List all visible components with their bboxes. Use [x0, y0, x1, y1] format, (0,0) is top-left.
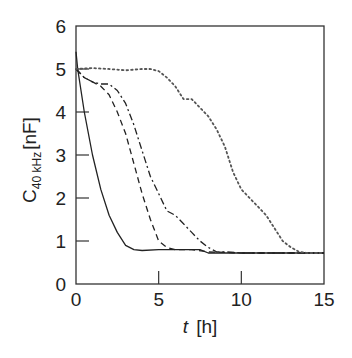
plot-border — [76, 26, 324, 284]
x-axis-var: t — [183, 316, 189, 337]
y-tick-label: 4 — [55, 102, 66, 123]
x-axis-unit: [h] — [196, 316, 217, 337]
y-axis-sub: 40 kHz — [30, 152, 44, 189]
y-tick-label: 5 — [55, 59, 66, 80]
tick-labels: 0123456051015 — [55, 16, 334, 310]
y-tick-label: 6 — [55, 16, 66, 37]
series-dash-dot — [76, 69, 324, 253]
chart: 0123456051015 t [h] C40 kHz[nF] — [0, 0, 352, 358]
plot-frame — [76, 26, 324, 284]
y-axis-unit: [nF] — [19, 117, 40, 150]
y-tick-label: 2 — [55, 188, 66, 209]
y-axis-main: C — [19, 189, 40, 203]
x-axis-title: t [h] — [183, 316, 218, 337]
x-tick-label: 10 — [231, 289, 252, 310]
series-dashed — [76, 69, 324, 253]
y-tick-label: 0 — [55, 274, 66, 295]
x-tick-label: 5 — [153, 289, 164, 310]
series-group — [76, 52, 324, 253]
y-axis-title: C40 kHz[nF] — [19, 117, 44, 203]
series-solid — [76, 52, 324, 253]
x-tick-label: 0 — [71, 289, 82, 310]
y-tick-label: 1 — [55, 231, 66, 252]
x-tick-label: 15 — [313, 289, 334, 310]
y-tick-label: 3 — [55, 145, 66, 166]
